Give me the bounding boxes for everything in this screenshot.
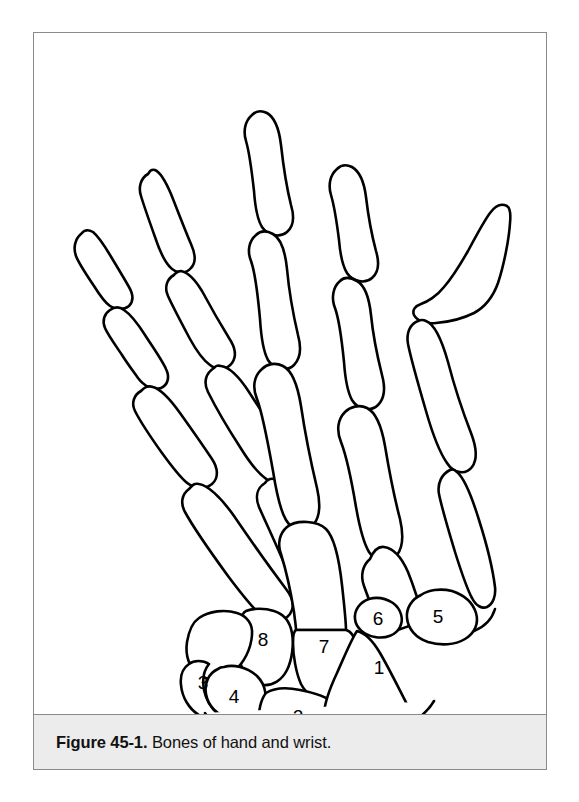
bone-proximal-phalanx-index	[338, 406, 402, 561]
figure-frame: 1 2 3 4 5 6 7 8 Figure 45-1. Bones of ha…	[33, 32, 547, 770]
bone-label-8: 8	[258, 629, 269, 650]
bone-distal-phalanx-little	[75, 230, 133, 309]
figure-caption-bar: Figure 45-1. Bones of hand and wrist.	[34, 714, 546, 769]
bone-middle-phalanx-middle	[249, 231, 300, 369]
figure-caption-description: Bones of hand and wrist.	[147, 733, 331, 751]
bone-proximal-phalanx-little	[133, 386, 217, 488]
bone-label-1: 1	[374, 657, 385, 678]
bone-label-3: 3	[198, 672, 209, 693]
bone-label-4: 4	[229, 686, 240, 707]
illustration-area: 1 2 3 4 5 6 7 8	[34, 33, 546, 715]
bone-middle-phalanx-ring	[166, 271, 235, 369]
bone-distal-phalanx-index	[330, 165, 378, 281]
bone-middle-phalanx-index	[333, 278, 384, 409]
bone-distal-phalanx-middle	[245, 111, 293, 235]
bone-distal-phalanx-thumb	[413, 205, 510, 323]
bone-middle-phalanx-little	[104, 307, 168, 389]
figure-caption-number: Figure 45-1.	[56, 733, 147, 751]
figure-page: 1 2 3 4 5 6 7 8 Figure 45-1. Bones of ha…	[0, 0, 579, 802]
bone-label-6: 6	[373, 608, 384, 629]
bone-metacarpal-thumb	[439, 469, 496, 607]
bone-label-5: 5	[433, 606, 444, 627]
figure-caption: Figure 45-1. Bones of hand and wrist.	[34, 733, 331, 752]
bone-label-7: 7	[319, 636, 330, 657]
bone-proximal-phalanx-thumb	[407, 320, 475, 472]
hand-skeleton-diagram: 1 2 3 4 5 6 7 8	[34, 33, 546, 715]
bone-distal-phalanx-ring	[140, 170, 195, 273]
